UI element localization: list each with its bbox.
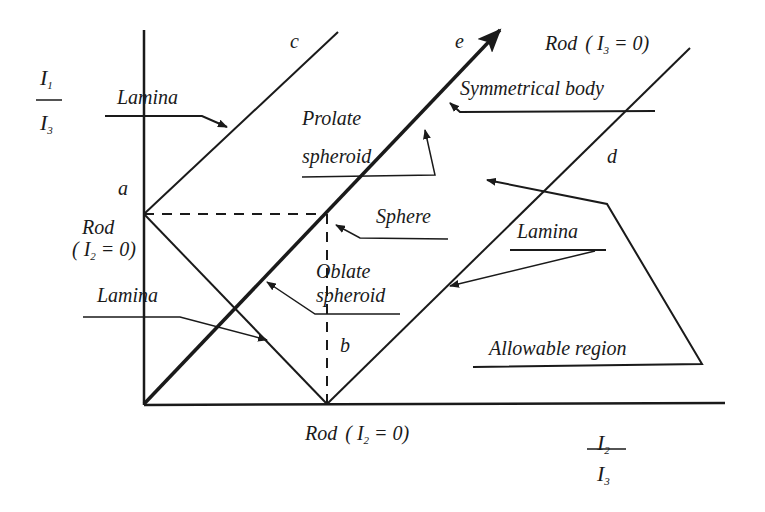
annotation-lamina-right: Lamina (450, 220, 606, 286)
svg-text:Prolate: Prolate (301, 107, 361, 129)
svg-text:spheroid: spheroid (316, 284, 386, 307)
svg-text:Oblate: Oblate (316, 260, 371, 282)
svg-text:Sphere: Sphere (376, 205, 431, 228)
svg-text:Lamina: Lamina (96, 284, 158, 306)
label-a: a (118, 177, 128, 199)
rod-i2-bottom-label: Rod( I2 = 0) (304, 422, 410, 446)
x-axis-label: I2 I3 (587, 430, 626, 487)
y-axis-label: I1 I3 (36, 65, 62, 136)
x-axis (144, 403, 725, 405)
annotation-allowable-region: Allowable region (473, 180, 702, 367)
svg-text:I3: I3 (596, 461, 610, 487)
svg-text:Lamina: Lamina (516, 220, 578, 242)
annotation-symmetrical-body: Symmetrical body (450, 77, 655, 112)
svg-text:Lamina: Lamina (116, 86, 178, 108)
annotation-sphere: Sphere (336, 205, 448, 239)
svg-text:I3: I3 (39, 110, 53, 136)
rod-i2-left-label: Rod ( I2 = 0) (72, 216, 136, 262)
svg-text:Rod: Rod (81, 216, 115, 238)
label-c: c (290, 30, 299, 52)
annotation-oblate-spheroid: Oblate spheroid (267, 260, 400, 314)
moment-of-inertia-diagram: I1 I3 I2 I3 a b c d e Rod( I3 = 0) Rod (… (0, 0, 765, 512)
annotation-lamina-top: Lamina (105, 86, 227, 127)
arrow-e-diagonal (144, 30, 500, 404)
svg-text:spheroid: spheroid (302, 145, 372, 168)
label-e: e (455, 30, 464, 52)
rod-i3-label: Rod( I3 = 0) (544, 32, 650, 56)
svg-text:Allowable region: Allowable region (487, 337, 627, 360)
label-b: b (340, 334, 350, 356)
svg-text:( I2 = 0): ( I2 = 0) (72, 238, 136, 262)
svg-text:I1: I1 (39, 65, 53, 91)
svg-text:I2: I2 (596, 430, 610, 456)
label-d: d (607, 145, 618, 167)
svg-text:Symmetrical body: Symmetrical body (460, 77, 604, 100)
